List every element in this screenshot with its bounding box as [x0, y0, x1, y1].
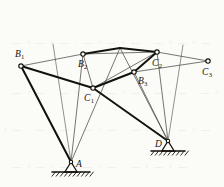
member-thick-C1-D [93, 88, 168, 141]
member-thin-B2-A [71, 54, 83, 162]
joint-B2 [81, 52, 85, 56]
member-thin-B1-B2 [21, 54, 83, 66]
node-label-C3: C3 [202, 68, 212, 78]
joint-C3 [206, 59, 210, 63]
member-thin-C2-C3 [157, 52, 208, 61]
ground-hatch-D [185, 151, 188, 155]
joint-B1 [19, 64, 23, 68]
support-pin-D [166, 139, 169, 142]
node-label-B1: B1 [15, 50, 24, 60]
figure-canvas: · — ▫ — ▫ — · — ▫ — ▫ — · — ▫ — ▫ — ·· —… [0, 0, 224, 187]
node-label-B2: B2 [78, 60, 87, 70]
joint-C2 [155, 50, 159, 54]
node-label-A: A [76, 160, 82, 170]
joint-B3 [132, 70, 136, 74]
member-thick-C1-B3 [93, 72, 134, 88]
truss-diagram [0, 0, 224, 187]
thick-members-group [21, 48, 168, 162]
guide-line [168, 45, 183, 141]
node-label-D: D [155, 140, 162, 150]
node-label-C1: C1 [84, 94, 94, 104]
thin-members-group [21, 48, 208, 162]
node-label-C2: C2 [152, 59, 162, 69]
support-pin-A [69, 160, 72, 163]
member-thick-V-C2 [120, 48, 157, 52]
ground-hatch-A [90, 172, 93, 176]
node-label-B3: B3 [138, 77, 147, 87]
joint-C1 [91, 86, 95, 90]
